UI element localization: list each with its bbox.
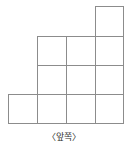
unit-cube-shape-canvas <box>0 0 128 128</box>
unit-cell <box>67 37 96 66</box>
unit-cell <box>9 95 38 124</box>
unit-cell <box>38 66 67 95</box>
figure-caption: 〈앞쪽〉 <box>0 130 128 144</box>
figure-root: 〈앞쪽〉 <box>0 0 128 152</box>
unit-cell <box>96 7 124 37</box>
unit-cell <box>38 95 67 124</box>
unit-cube-shape-svg <box>0 0 128 128</box>
unit-cell-group <box>9 7 124 124</box>
unit-cell <box>67 66 96 95</box>
unit-cell <box>96 66 124 95</box>
unit-cell <box>96 37 124 66</box>
unit-cell <box>38 37 67 66</box>
unit-cell <box>67 95 96 124</box>
unit-cell <box>96 95 124 124</box>
